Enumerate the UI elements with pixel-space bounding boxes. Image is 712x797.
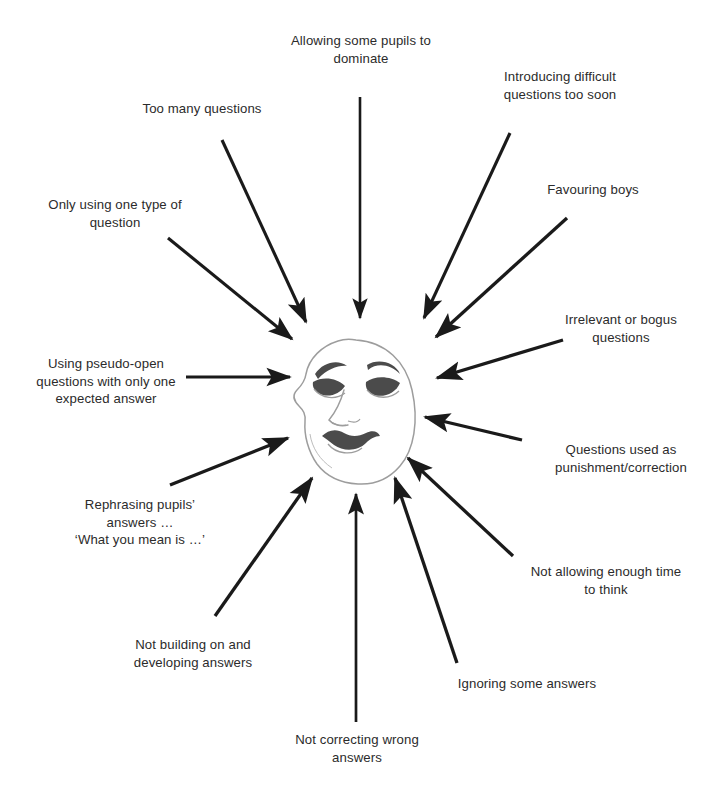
label-not-building-on-and-developing-answers: Not building on and developing answers — [108, 636, 278, 671]
diagram-canvas: Allowing some pupils to dominate Introdu… — [0, 0, 712, 797]
label-irrelevant-or-bogus-questions: Irrelevant or bogus questions — [538, 311, 704, 346]
label-using-pseudo-open-questions: Using pseudo-open questions with only on… — [22, 355, 190, 408]
label-questions-used-as-punishment-correction: Questions used as punishment/correction — [533, 441, 709, 476]
label-allowing-some-pupils-to-dominate: Allowing some pupils to dominate — [276, 32, 446, 67]
label-not-correcting-wrong-answers: Not correcting wrong answers — [272, 731, 442, 766]
label-only-using-one-type-of-question: Only using one type of question — [32, 196, 198, 231]
label-not-allowing-enough-time-to-think: Not allowing enough time to think — [513, 563, 699, 598]
label-too-many-questions: Too many questions — [122, 100, 282, 118]
label-ignoring-some-answers: Ignoring some answers — [442, 675, 612, 693]
label-rephrasing-pupils-answers: Rephrasing pupils’ answers … ‘What you m… — [52, 496, 228, 549]
label-favouring-boys: Favouring boys — [513, 181, 673, 199]
label-introducing-difficult-questions-too-soon: Introducing difficult questions too soon — [470, 68, 650, 103]
